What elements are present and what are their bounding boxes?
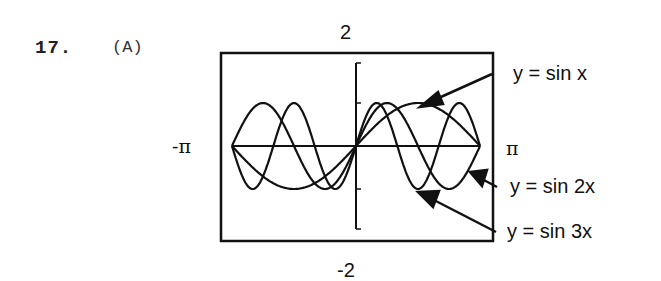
arrowhead-sin-x bbox=[420, 92, 443, 107]
arrowhead-sin-2x bbox=[470, 170, 487, 186]
legend-label-sin-x: y = sin x bbox=[513, 62, 587, 85]
legend-label-sin-3x: y = sin 3x bbox=[507, 220, 592, 243]
arrowhead-sin-3x bbox=[418, 191, 439, 207]
arrow-sin-3x bbox=[432, 199, 496, 232]
ymax-label: 2 bbox=[340, 21, 351, 44]
legend-arrows bbox=[418, 74, 497, 232]
xmax-label: π bbox=[506, 137, 519, 159]
legend-label-sin-2x: y = sin 2x bbox=[510, 175, 595, 198]
xmin-label: -π bbox=[172, 135, 191, 157]
ymin-label: -2 bbox=[337, 259, 355, 281]
